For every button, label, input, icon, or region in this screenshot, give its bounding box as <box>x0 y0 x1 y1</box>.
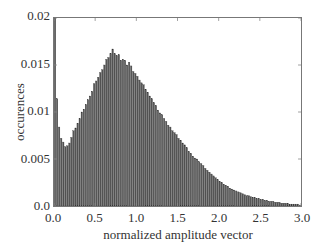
histogram-bar <box>79 119 80 206</box>
histogram-bar <box>128 62 129 206</box>
histogram-bar <box>87 100 88 206</box>
histogram-bar <box>81 112 82 206</box>
histogram-bar <box>69 143 70 206</box>
histogram-bar <box>135 73 136 206</box>
histogram-bar <box>145 89 146 206</box>
histogram-bar <box>116 56 117 206</box>
histogram-bar <box>281 203 282 206</box>
histogram-bar <box>56 99 57 206</box>
histogram-bar <box>108 57 109 206</box>
histogram-bar <box>67 146 68 206</box>
histogram-bar <box>217 180 218 206</box>
histogram-bar <box>252 198 253 206</box>
histogram-bar <box>223 184 224 206</box>
histogram-bar <box>155 105 156 206</box>
x-axis-label: normalized amplitude vector <box>103 227 252 243</box>
histogram-bar <box>200 164 201 206</box>
histogram-bar <box>277 202 278 206</box>
histogram-bar <box>168 125 169 206</box>
histogram-bar <box>242 194 243 206</box>
histogram-bar <box>237 192 238 206</box>
histogram-bar <box>233 190 234 206</box>
histogram-bar <box>172 131 173 206</box>
histogram-bar <box>202 166 203 206</box>
histogram-bar <box>260 199 261 206</box>
x-tick-label: 3.0 <box>294 210 310 226</box>
histogram-bar <box>75 128 76 206</box>
histogram-bar <box>126 65 127 206</box>
histogram-bar <box>227 186 228 206</box>
histogram-bar <box>211 174 212 206</box>
histogram-bar <box>180 140 181 206</box>
histogram-bar <box>229 188 230 206</box>
histogram-bar <box>147 92 148 206</box>
histogram-bar <box>106 59 107 206</box>
histogram-bar <box>120 60 121 206</box>
x-tick-label: 0.5 <box>86 210 102 226</box>
histogram-bar <box>219 182 220 206</box>
histogram-bar <box>89 96 90 206</box>
histogram-bar <box>279 202 280 206</box>
histogram-bar <box>100 73 101 206</box>
histogram-bar <box>192 156 193 206</box>
histogram-bar <box>244 195 245 206</box>
histogram-bar <box>221 183 222 207</box>
histogram-bar <box>118 55 119 206</box>
histogram-bar <box>207 170 208 206</box>
histogram-bar <box>170 127 171 206</box>
histogram-bar <box>182 143 183 206</box>
histogram-bar <box>91 91 92 206</box>
histogram-bar <box>256 198 257 206</box>
histogram-bar <box>196 159 197 206</box>
histogram-bar <box>102 70 103 206</box>
histogram-bar <box>215 178 216 206</box>
histogram-bar <box>98 77 99 206</box>
histogram-bar <box>153 103 154 206</box>
histogram-bar <box>250 197 251 206</box>
y-tick-label: 0.005 <box>21 151 50 167</box>
histogram-bar <box>139 80 140 206</box>
histogram-bar <box>163 119 164 206</box>
x-tick-label: 2.0 <box>211 210 227 226</box>
histogram-bar <box>110 54 111 206</box>
histogram-bar <box>194 158 195 206</box>
histogram-bar <box>149 96 150 206</box>
histogram-bar <box>287 203 288 206</box>
histogram-bar <box>270 201 271 206</box>
histogram-bar <box>198 162 199 206</box>
histogram-bar <box>178 138 179 206</box>
histogram-bar <box>231 189 232 206</box>
histogram-bar <box>240 193 241 206</box>
histogram-bar <box>285 203 286 206</box>
histogram-bar <box>124 60 125 206</box>
histogram-bar <box>60 138 61 206</box>
y-tick-label: 0.01 <box>27 103 50 119</box>
histogram-bar <box>295 204 296 206</box>
histogram-bar <box>268 201 269 206</box>
histogram-bar <box>93 84 94 206</box>
y-tick-label: 0.015 <box>21 56 50 72</box>
histogram-bar <box>114 54 115 206</box>
histogram-bar <box>85 104 86 206</box>
histogram-bar <box>289 204 290 206</box>
histogram-bar <box>184 145 185 206</box>
histogram-bar <box>283 203 284 206</box>
histogram-bar <box>151 99 152 206</box>
histogram-bar <box>291 204 292 206</box>
histogram-bar <box>130 66 131 206</box>
histogram-bar <box>58 127 59 206</box>
y-axis-label: occurences <box>12 83 28 141</box>
histogram-bar <box>73 131 74 206</box>
histogram-bar <box>65 147 66 206</box>
histogram-bar <box>141 83 142 206</box>
histogram-bar <box>264 200 265 206</box>
histogram-bar <box>176 135 177 206</box>
histogram-bar <box>95 81 96 206</box>
x-tick-label: 1.5 <box>169 210 185 226</box>
histogram-bar <box>213 176 214 206</box>
histogram-bar <box>209 172 210 206</box>
histogram-bar <box>246 196 247 206</box>
histogram-bar <box>272 201 273 206</box>
histogram-bar <box>293 204 294 206</box>
histogram-bar <box>159 113 160 206</box>
